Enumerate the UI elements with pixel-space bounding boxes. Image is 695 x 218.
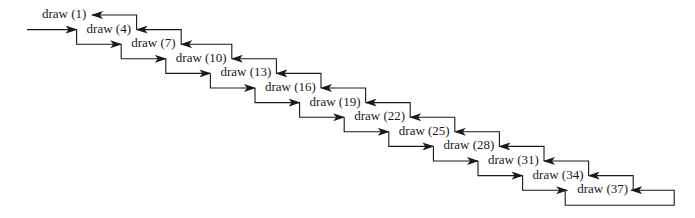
node-label: draw (4) [87, 22, 131, 36]
node-label: draw (16) [265, 80, 316, 94]
node-label: draw (10) [176, 51, 227, 65]
node-label: draw (37) [577, 182, 628, 196]
node-label: draw (19) [310, 95, 361, 109]
node-label: draw (7) [131, 36, 175, 50]
node-label: draw (31) [488, 153, 539, 167]
node-label: draw (25) [399, 124, 450, 138]
node-label: draw (34) [533, 168, 584, 182]
node-label: draw (13) [220, 65, 271, 79]
node-label: draw (28) [443, 138, 494, 152]
node-label: draw (1) [42, 7, 86, 21]
node-label: draw (22) [354, 109, 405, 123]
